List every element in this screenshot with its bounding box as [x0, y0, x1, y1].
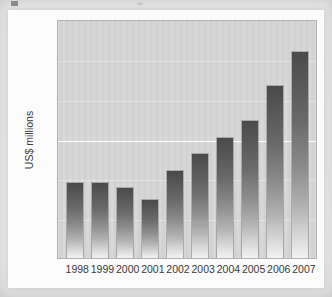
bar	[67, 183, 83, 258]
bar	[217, 138, 233, 258]
x-axis-tick-label: 2007	[292, 263, 308, 275]
x-axis-ticks: 1998199920002001200220032004200520062007	[57, 263, 317, 275]
bar	[192, 154, 208, 258]
bar	[292, 52, 308, 258]
chart-figure: US$ millions 020004000600080001000012000…	[0, 0, 332, 297]
x-axis-tick-label: 2001	[141, 263, 157, 275]
x-axis-tick-label: 1998	[66, 263, 82, 275]
x-axis-tick-label: 2000	[116, 263, 132, 275]
bar-series	[58, 21, 316, 258]
x-axis-tick-label: 2006	[267, 263, 283, 275]
x-axis-tick-label: 2002	[166, 263, 182, 275]
x-axis-tick-label: 1999	[91, 263, 107, 275]
bar	[142, 200, 158, 258]
bar	[267, 86, 283, 258]
plot-area	[57, 20, 317, 259]
scan-artifact-top-center	[137, 2, 143, 5]
scan-artifact-top-left	[11, 1, 18, 6]
x-axis-tick-label: 2005	[242, 263, 258, 275]
x-axis-tick-label: 2003	[192, 263, 208, 275]
y-axis-ticks: 020004000600080001000012000	[0, 20, 57, 259]
bar	[167, 171, 183, 258]
x-axis-tick-label: 2004	[217, 263, 233, 275]
bar	[242, 121, 258, 258]
bar	[92, 183, 108, 258]
bar	[117, 188, 133, 258]
